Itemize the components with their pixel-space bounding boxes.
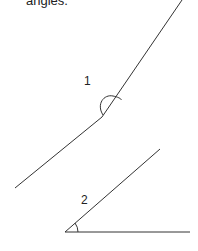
angles-diagram <box>0 0 198 251</box>
angle-2-arc <box>75 223 78 232</box>
angle-2-label: 2 <box>81 193 88 207</box>
angle-1-label: 1 <box>84 74 91 88</box>
angle-1-arc <box>100 96 121 115</box>
angle-1-ray-lower <box>15 117 102 188</box>
angle-2-ray-upper <box>65 149 160 232</box>
angle-1-ray-upper <box>102 0 182 117</box>
